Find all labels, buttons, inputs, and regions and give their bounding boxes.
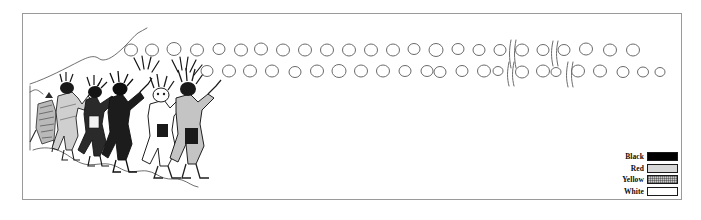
legend-swatch-white-fill: [647, 187, 678, 196]
legend-row-black: Black: [592, 151, 678, 162]
legend-row-white: White: [592, 186, 678, 197]
figure-frame-border: [22, 13, 682, 200]
color-key-legend: Black Red Yellow White: [592, 150, 678, 198]
legend-swatch-red-fill: [647, 164, 678, 173]
legend-label-red: Red: [631, 164, 647, 173]
figure-root: Black Red Yellow White: [0, 0, 701, 220]
legend-swatch-yellow-fill: [647, 175, 678, 184]
legend-swatch-black-fill: [647, 152, 678, 161]
legend-row-yellow: Yellow: [592, 174, 678, 185]
legend-label-yellow: Yellow: [622, 175, 647, 184]
legend-row-red: Red: [592, 163, 678, 174]
legend-label-white: White: [624, 187, 647, 196]
legend-label-black: Black: [625, 152, 647, 161]
